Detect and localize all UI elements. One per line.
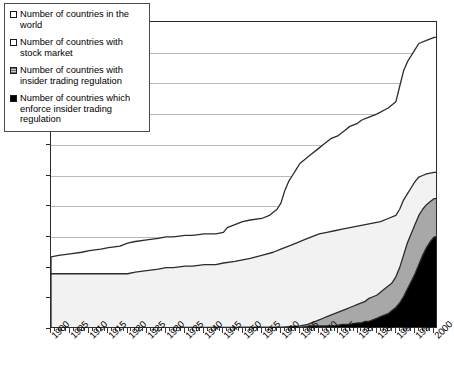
legend-label: Number of countries which enforce inside… (20, 93, 144, 125)
legend-swatch-enforcement-icon (10, 95, 17, 102)
legend-label: Number of countries in the world (20, 9, 144, 30)
legend: Number of countries in the world Number … (4, 3, 150, 132)
chart-figure: 020406080100120140160180200 190019051910… (0, 0, 454, 380)
legend-swatch-regulation-icon (10, 67, 17, 74)
legend-label: Number of countries with insider trading… (20, 65, 144, 86)
legend-swatch-world-icon (10, 11, 17, 18)
legend-item: Number of countries which enforce inside… (10, 93, 144, 125)
legend-label: Number of countries with stock market (20, 37, 144, 58)
legend-swatch-stock-icon (10, 39, 17, 46)
legend-item: Number of countries with stock market (10, 37, 144, 58)
legend-item: Number of countries with insider trading… (10, 65, 144, 86)
legend-item: Number of countries in the world (10, 9, 144, 30)
